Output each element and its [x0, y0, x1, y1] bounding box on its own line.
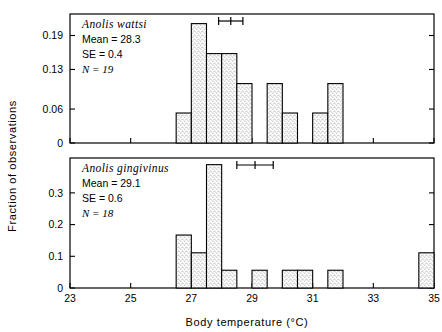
panel-anolis-gingivinus: 00.10.20.323252729313335Anolis gingivinu…	[48, 158, 440, 304]
panel-anolis-wattsi: 00.060.130.19Anolis wattsiMean = 28.3SE …	[43, 14, 434, 149]
x-tick-label: 25	[125, 292, 137, 304]
annotation-n: N = 19	[81, 63, 114, 75]
mean-se-error-bar	[219, 17, 243, 25]
histogram-bar	[207, 54, 222, 143]
histogram-bar	[252, 270, 267, 288]
y-tick-label: 0.13	[43, 63, 64, 75]
y-tick-label: 0.06	[43, 103, 64, 115]
histogram-bar	[282, 113, 297, 143]
y-tick-label: 0	[57, 137, 63, 149]
x-tick-label: 23	[64, 292, 76, 304]
annotation-mean: Mean = 28.3	[82, 33, 141, 45]
y-tick-label: 0.3	[48, 187, 63, 199]
histogram-bar	[207, 165, 222, 288]
histogram-bar	[313, 113, 328, 143]
annotation-species-name: Anolis wattsi	[81, 18, 147, 30]
histogram-bar	[222, 54, 237, 143]
y-axis-title: Fraction of observations	[6, 100, 18, 232]
histogram-bar	[328, 270, 343, 288]
y-tick-label: 0	[57, 282, 63, 294]
histogram-bar	[298, 270, 313, 288]
y-axis-title-group: Fraction of observations	[6, 100, 18, 232]
histogram-bar	[237, 84, 252, 143]
histogram-bar	[176, 235, 191, 288]
histogram-bar	[267, 84, 282, 143]
y-tick-label: 0.19	[43, 29, 64, 41]
histogram-bar	[191, 24, 206, 143]
annotation-se: SE = 0.6	[82, 192, 123, 204]
mean-se-error-bar	[237, 161, 273, 169]
histogram-bar	[176, 113, 191, 143]
annotation-se: SE = 0.4	[82, 48, 123, 60]
x-tick-label: 27	[185, 292, 197, 304]
x-axis-title-group: Body temperature (°C)	[186, 316, 309, 328]
annotation-n: N = 18	[81, 207, 114, 219]
figure-canvas: Fraction of observations 00.060.130.19An…	[0, 0, 442, 332]
histogram-bar	[191, 253, 206, 288]
x-tick-label: 29	[246, 292, 258, 304]
histogram-bar	[328, 84, 343, 143]
x-tick-label: 35	[428, 292, 440, 304]
y-tick-label: 0.1	[48, 250, 63, 262]
annotation-mean: Mean = 29.1	[82, 177, 141, 189]
histogram-bar	[419, 253, 434, 288]
histogram-bar	[282, 270, 297, 288]
x-tick-label: 31	[307, 292, 319, 304]
x-axis-title: Body temperature (°C)	[186, 316, 309, 328]
histogram-bar	[222, 270, 237, 288]
x-tick-label: 33	[367, 292, 379, 304]
histogram-figure: Fraction of observations 00.060.130.19An…	[0, 0, 442, 332]
annotation-species-name: Anolis gingivinus	[81, 162, 169, 175]
y-tick-label: 0.2	[48, 218, 63, 230]
